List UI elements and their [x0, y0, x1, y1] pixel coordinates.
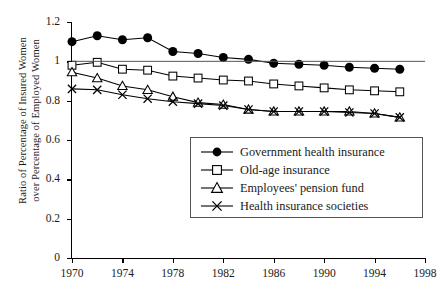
y-tick-label: 0.8: [46, 95, 60, 107]
y-tick-label: 0: [54, 252, 60, 264]
data-point: [370, 64, 379, 73]
legend-symbol-open-square: [199, 162, 235, 178]
data-point: [219, 53, 228, 62]
data-point: [118, 35, 127, 44]
data-point: [345, 63, 354, 72]
data-point: [245, 77, 253, 85]
x-tick-label: 1986: [262, 268, 285, 280]
x-tick-label: 1970: [61, 268, 84, 280]
data-point: [169, 72, 177, 80]
legend-item[interactable]: Employees' pension fund: [199, 179, 422, 197]
data-point: [219, 76, 227, 84]
data-point: [270, 80, 278, 88]
data-point: [93, 31, 102, 40]
data-point: [119, 65, 127, 73]
y-axis-title: Ratio of Percentage of Insured Women ove…: [17, 0, 42, 246]
chart-figure: Ratio of Percentage of Insured Women ove…: [0, 0, 442, 293]
legend-symbol-x-cross: [199, 198, 235, 214]
y-tick-label: 1: [54, 55, 60, 67]
legend-label: Old-age insurance: [235, 164, 330, 177]
x-tick-label: 1994: [363, 268, 386, 280]
data-point: [168, 47, 177, 56]
data-point: [320, 84, 328, 92]
x-tick-label: 1982: [212, 268, 235, 280]
legend-item[interactable]: Government health insurance: [199, 143, 422, 161]
data-point: [68, 37, 77, 46]
x-tick-label: 1974: [111, 268, 134, 280]
data-point: [194, 49, 203, 58]
legend-symbol-filled-circle: [199, 144, 235, 160]
y-tick-label: 0.2: [46, 213, 60, 225]
y-tick-label: 0.6: [46, 134, 60, 146]
legend-label: Government health insurance: [235, 146, 385, 159]
legend-box: Government health insurance Old-age insu…: [190, 137, 423, 218]
x-tick-label: 1998: [414, 268, 437, 280]
data-point: [320, 61, 329, 70]
x-tick-label: 1978: [161, 268, 184, 280]
data-point: [194, 74, 202, 82]
legend-label: Health insurance societies: [235, 200, 368, 213]
data-point: [244, 55, 253, 64]
y-tick-label: 1.2: [46, 16, 60, 28]
data-point: [93, 58, 101, 66]
data-point: [395, 65, 404, 74]
data-point: [143, 33, 152, 42]
x-tick-label: 1990: [313, 268, 336, 280]
series-open-square: [68, 58, 404, 95]
data-point: [371, 87, 379, 95]
y-tick-label: 0.4: [46, 173, 60, 185]
x-tick: [425, 258, 426, 263]
legend-item[interactable]: Health insurance societies: [199, 197, 422, 215]
legend-item[interactable]: Old-age insurance: [199, 161, 422, 179]
data-point: [269, 59, 278, 68]
data-point: [295, 82, 303, 90]
data-point: [144, 66, 152, 74]
legend-label: Employees' pension fund: [235, 182, 364, 195]
data-point: [396, 88, 404, 96]
data-point: [345, 86, 353, 94]
legend-symbol-open-triangle: [199, 180, 235, 196]
